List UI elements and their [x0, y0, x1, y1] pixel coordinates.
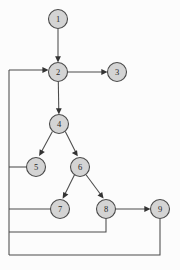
- arrowhead-6-to-8: [98, 192, 104, 199]
- node-4[interactable]: 4: [50, 115, 69, 134]
- edge-6-to-8: [86, 175, 102, 196]
- back-edge-from-node-9: [9, 219, 160, 256]
- control-flow-graph: 1 2 3 4 5 6: [0, 0, 180, 270]
- node-2[interactable]: 2: [49, 63, 68, 82]
- node-8[interactable]: 8: [97, 200, 116, 219]
- edge-4-to-6: [65, 132, 76, 154]
- node-9-label: 9: [158, 204, 162, 214]
- node-group: 1 2 3 4 5 6: [27, 10, 170, 219]
- node-8-label: 8: [104, 204, 108, 214]
- node-1-label: 1: [56, 14, 60, 24]
- arrowhead-8-to-9: [144, 206, 150, 212]
- node-1[interactable]: 1: [49, 10, 68, 29]
- edge-2-to-4: [58, 82, 59, 112]
- diagram-canvas: 1 2 3 4 5 6: [0, 0, 180, 270]
- node-9[interactable]: 9: [151, 200, 170, 219]
- node-2-label: 2: [56, 67, 60, 77]
- node-7[interactable]: 7: [51, 200, 70, 219]
- node-5-label: 5: [34, 162, 38, 172]
- arrowhead-1-to-2: [55, 56, 61, 62]
- node-6-label: 6: [78, 162, 82, 172]
- node-3-label: 3: [115, 67, 119, 77]
- node-7-label: 7: [58, 204, 62, 214]
- arrowhead-2-to-3: [101, 69, 107, 75]
- back-edge-from-node-8: [9, 219, 106, 233]
- arrowhead-into-node-2: [42, 67, 48, 73]
- edge-4-to-5: [41, 132, 53, 154]
- edge-6-to-7: [64, 175, 75, 196]
- node-6[interactable]: 6: [71, 158, 90, 177]
- node-5[interactable]: 5: [27, 158, 46, 177]
- arrowhead-2-to-4: [56, 108, 62, 114]
- node-3[interactable]: 3: [108, 63, 127, 82]
